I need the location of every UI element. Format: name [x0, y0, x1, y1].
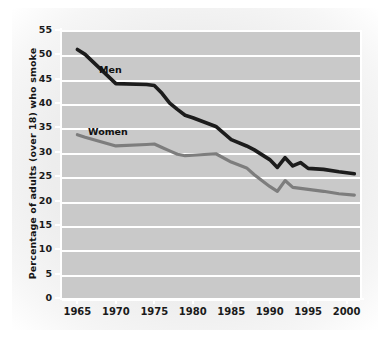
- line-chart-figure: Percentage of adults (over 18) who smoke…: [0, 0, 390, 340]
- series-label-women: Women: [88, 126, 128, 137]
- chart-screenshot: Percentage of adults (over 18) who smoke…: [0, 0, 390, 340]
- series-lines-group: [0, 0, 390, 340]
- series-label-men: Men: [99, 64, 122, 75]
- series-line-women: [77, 135, 354, 195]
